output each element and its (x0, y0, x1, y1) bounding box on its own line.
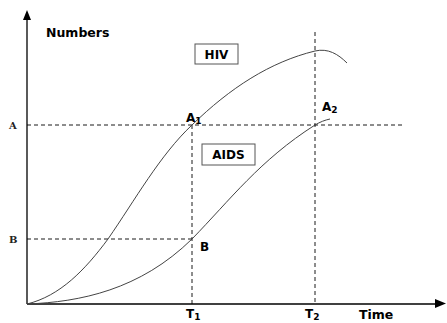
y-axis-arrow-icon (23, 10, 31, 20)
t1-label: T1 (186, 307, 200, 322)
aids-label: AIDS (212, 148, 244, 162)
point-b-label: B (200, 240, 209, 254)
x-axis-title: Time (359, 307, 393, 322)
aids-curve (27, 119, 330, 304)
point-a1-label: A1 (186, 111, 202, 126)
t2-label: T2 (305, 307, 319, 322)
hiv-aids-diagram: HIV AIDS Numbers Time A B A1 A2 B T1 T2 (0, 0, 447, 323)
level-b-label: B (9, 234, 17, 245)
hiv-label: HIV (205, 48, 230, 62)
point-a2-label: A2 (322, 100, 338, 115)
hiv-curve (27, 50, 347, 304)
level-a-label: A (8, 120, 17, 131)
x-axis-arrow-icon (435, 299, 446, 308)
y-axis-title: Numbers (46, 25, 109, 40)
